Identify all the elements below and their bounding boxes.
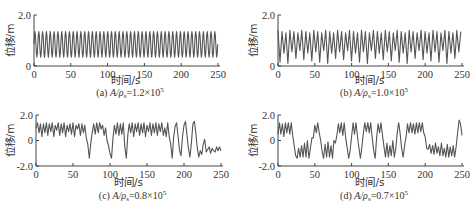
x-axis-label: 时间/s [114, 176, 143, 188]
x-tick-label: 250 [454, 169, 470, 180]
y-tick-label: 0 [270, 135, 275, 146]
y-tick-label: 2.0 [262, 10, 275, 21]
x-tick-label: 0 [31, 69, 36, 80]
x-axis-label: 时间/s [111, 74, 140, 86]
x-tick-label: 0 [33, 169, 38, 180]
x-tick-label: 50 [310, 69, 321, 80]
y-tick-label: -2.0 [16, 161, 33, 172]
x-tick-label: 250 [213, 169, 229, 180]
series-line-displacement [36, 121, 221, 158]
y-axis-label: 位移/m [4, 124, 16, 158]
x-tick-label: 250 [210, 69, 226, 80]
y-tick-label: 2.0 [20, 110, 33, 121]
figure: 02.0050100150200250时间/s位移/m(a) A/ρs=1.2×… [0, 0, 470, 211]
series-line-displacement [278, 120, 462, 158]
x-tick-label: 0 [275, 169, 280, 180]
panel-caption: (b) A/ρs=1.0×105 [340, 86, 408, 100]
x-tick-label: 200 [176, 169, 192, 180]
y-tick-label: 2.0 [18, 10, 31, 21]
y-axis-label: 位移/m [247, 24, 259, 58]
x-tick-label: 50 [68, 169, 79, 180]
y-axis-label: 位移/m [247, 124, 259, 158]
y-axis-label: 位移/m [4, 24, 16, 58]
x-axis-label: 时间/s [355, 74, 384, 86]
y-tick-label: 0 [26, 61, 31, 72]
x-tick-label: 250 [454, 69, 470, 80]
panel-a: 02.0050100150200250时间/s位移/m(a) A/ρs=1.2×… [4, 10, 226, 101]
x-tick-label: 50 [66, 69, 77, 80]
y-tick-label: 0 [28, 135, 33, 146]
x-tick-label: 200 [173, 69, 189, 80]
y-tick-label: 2.0 [262, 110, 275, 121]
x-tick-label: 50 [310, 169, 321, 180]
panel-d: -2.002.0050100150200250时间/s位移/m(d) A/ρs=… [247, 110, 470, 204]
x-axis-label: 时间/s [355, 176, 384, 188]
panel-c: -2.002.0050100150200250时间/s位移/m(c) A/ρs=… [4, 110, 229, 204]
x-tick-label: 200 [417, 69, 433, 80]
panel-caption: (c) A/ρs=0.8×105 [99, 189, 167, 203]
series-line-displacement [34, 32, 218, 57]
panel-b: 02.0050100150200250时间/s位移/m(b) A/ρs=1.0×… [247, 10, 470, 101]
panel-caption: (a) A/ρs=1.2×105 [96, 86, 164, 100]
x-tick-label: 200 [417, 169, 433, 180]
y-tick-label: 0 [270, 61, 275, 72]
series-line-displacement [278, 30, 461, 63]
x-tick-label: 0 [275, 69, 280, 80]
panel-caption: (d) A/ρs=0.7×105 [340, 189, 408, 203]
y-tick-label: -2.0 [258, 161, 275, 172]
